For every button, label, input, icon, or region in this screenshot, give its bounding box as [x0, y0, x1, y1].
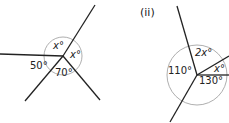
ray-down-right [63, 56, 100, 100]
diagram-ii: (ii) 2x° x° 110° 130° [140, 6, 229, 122]
angle-label-x-top: x° [52, 40, 64, 51]
diagram-ii-label: (ii) [140, 6, 155, 19]
angle-label-70: 70° [55, 67, 73, 78]
angles-diagram: x° x° 50° 70° (ii) 2x° x° 110° 130° [0, 0, 229, 123]
diagram-i: x° x° 50° 70° [0, 5, 100, 101]
ray-down-left [170, 75, 197, 122]
angle-label-x: x° [213, 63, 225, 74]
ray-left [0, 54, 63, 56]
angle-label-130: 130° [199, 75, 223, 86]
angle-label-50: 50° [30, 60, 48, 71]
angle-label-x-right: x° [69, 49, 81, 60]
angle-label-110: 110° [168, 65, 192, 76]
angle-label-2x: 2x° [195, 47, 212, 58]
